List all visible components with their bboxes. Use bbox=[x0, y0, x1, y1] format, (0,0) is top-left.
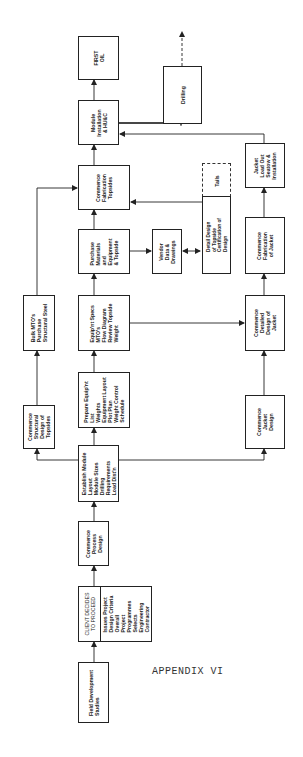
flowchart-canvas: FIRST OIL Drilling Module Installation &… bbox=[0, 0, 303, 757]
node-commence-jacket-design: Commence Jacket Design bbox=[245, 395, 285, 449]
node-label: Commence Jacket Design bbox=[256, 408, 274, 436]
drilling-connector bbox=[0, 0, 303, 757]
node-commence-process-design: Commence Process Design bbox=[78, 521, 109, 566]
node-commence-detailed-design-jacket: Commence Detailed Design of Jacket bbox=[245, 295, 285, 351]
node-label: Commence Fabrication of Jacket bbox=[256, 232, 274, 260]
client-decides-header: CLIENT DECIDES TO PROCEED bbox=[79, 587, 101, 641]
appendix-caption: APPENDIX VI bbox=[152, 666, 224, 677]
node-establish-module-layout: Establish Module Layout Module Sizes Dri… bbox=[78, 445, 119, 502]
node-jacket-load-out: Jacket Load Out Seatow & Installation bbox=[245, 143, 285, 188]
node-label: Commence Detailed Design of Jacket bbox=[253, 309, 277, 337]
node-field-development-studies: Field Development Studies bbox=[78, 662, 109, 723]
node-label: Issues Project Design Criteria Overall P… bbox=[102, 596, 150, 633]
node-bulk-mto: Bulk MTO's Purchase Structural Steel bbox=[23, 295, 55, 351]
node-prepare-equipment-list: Prepare Equip'nt List Weights Equipment … bbox=[78, 372, 130, 428]
client-decides-details: Issues Project Design Criteria Overall P… bbox=[100, 587, 151, 641]
node-purchase-materials: Purchase Materials and Equipment & Topsi… bbox=[78, 229, 130, 274]
node-label: Establish Module Layout Module Sizes Dri… bbox=[81, 452, 117, 495]
node-label: Tails bbox=[214, 175, 220, 186]
node-label: Bulk MTO's Purchase Structural Steel bbox=[30, 304, 48, 342]
node-drilling: Drilling bbox=[163, 66, 202, 124]
node-commence-structural-design: Commence Structural Design of Topsides bbox=[23, 405, 55, 449]
node-commence-fabrication-topsides: Commence Fabrication Topsides bbox=[78, 165, 130, 210]
node-label: Prepare Equip'nt List Weights Equipment … bbox=[83, 377, 125, 422]
node-label: Commence Fabrication Topsides bbox=[95, 174, 113, 202]
node-label: CLIENT DECIDES TO PROCEED bbox=[84, 593, 96, 636]
node-label: Field Development Studies bbox=[88, 669, 100, 715]
node-label: Equip'nt Specs MTO's Flow Diagram Review… bbox=[89, 304, 119, 343]
node-commence-fabrication-jacket: Commence Fabrication of Jacket bbox=[245, 217, 285, 274]
node-tails: Tails bbox=[202, 163, 231, 197]
node-label: Commence Process Design bbox=[85, 530, 103, 558]
node-label: Drilling bbox=[180, 86, 186, 104]
node-label: Purchase Materials and Equipment & Topsi… bbox=[89, 238, 119, 265]
node-label: FIRST OIL bbox=[93, 51, 105, 66]
node-label: Jacket Load Out Seatow & Installation bbox=[253, 152, 277, 179]
node-client-decides: CLIENT DECIDES TO PROCEED Issues Project… bbox=[78, 586, 152, 642]
node-equipment-specs: Equip'nt Specs MTO's Flow Diagram Review… bbox=[78, 295, 130, 351]
node-label: Vendor Data & Drawings bbox=[158, 240, 176, 263]
node-label: Detail Design of Topside Certification o… bbox=[205, 218, 227, 252]
node-vendor-data: Vendor Data & Drawings bbox=[152, 229, 182, 274]
node-first-oil: FIRST OIL bbox=[78, 36, 119, 80]
node-module-installation: Module Installation & HU&C bbox=[78, 100, 119, 145]
node-label: Commence Structural Design of Topsides bbox=[27, 413, 51, 441]
node-label: Module Installation & HU&C bbox=[90, 109, 108, 136]
node-detail-design-topside: Detail Design of Topside Certification o… bbox=[202, 196, 231, 274]
